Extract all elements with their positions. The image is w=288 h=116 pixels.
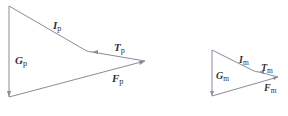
- force-polygon-diagram: Ip Tp Gp Fp Im Tm Gm Fm: [0, 0, 288, 116]
- label-Gp: Gp: [15, 55, 27, 68]
- label-Gm: Gm: [216, 71, 229, 83]
- label-Fm: Fm: [264, 83, 277, 95]
- arrowhead-Fm: [273, 77, 278, 80]
- label-Fp: Fp: [112, 73, 123, 86]
- label-Tm: Tm: [261, 63, 273, 75]
- label-Tp: Tp: [114, 42, 125, 55]
- arrowhead-Tp: [92, 50, 98, 54]
- label-Ip: Ip: [53, 20, 61, 33]
- arrowhead-Gp: [7, 91, 11, 97]
- label-Im: Im: [239, 55, 249, 67]
- arrowhead-Fp: [139, 61, 145, 65]
- vector-Fp: [9, 61, 145, 97]
